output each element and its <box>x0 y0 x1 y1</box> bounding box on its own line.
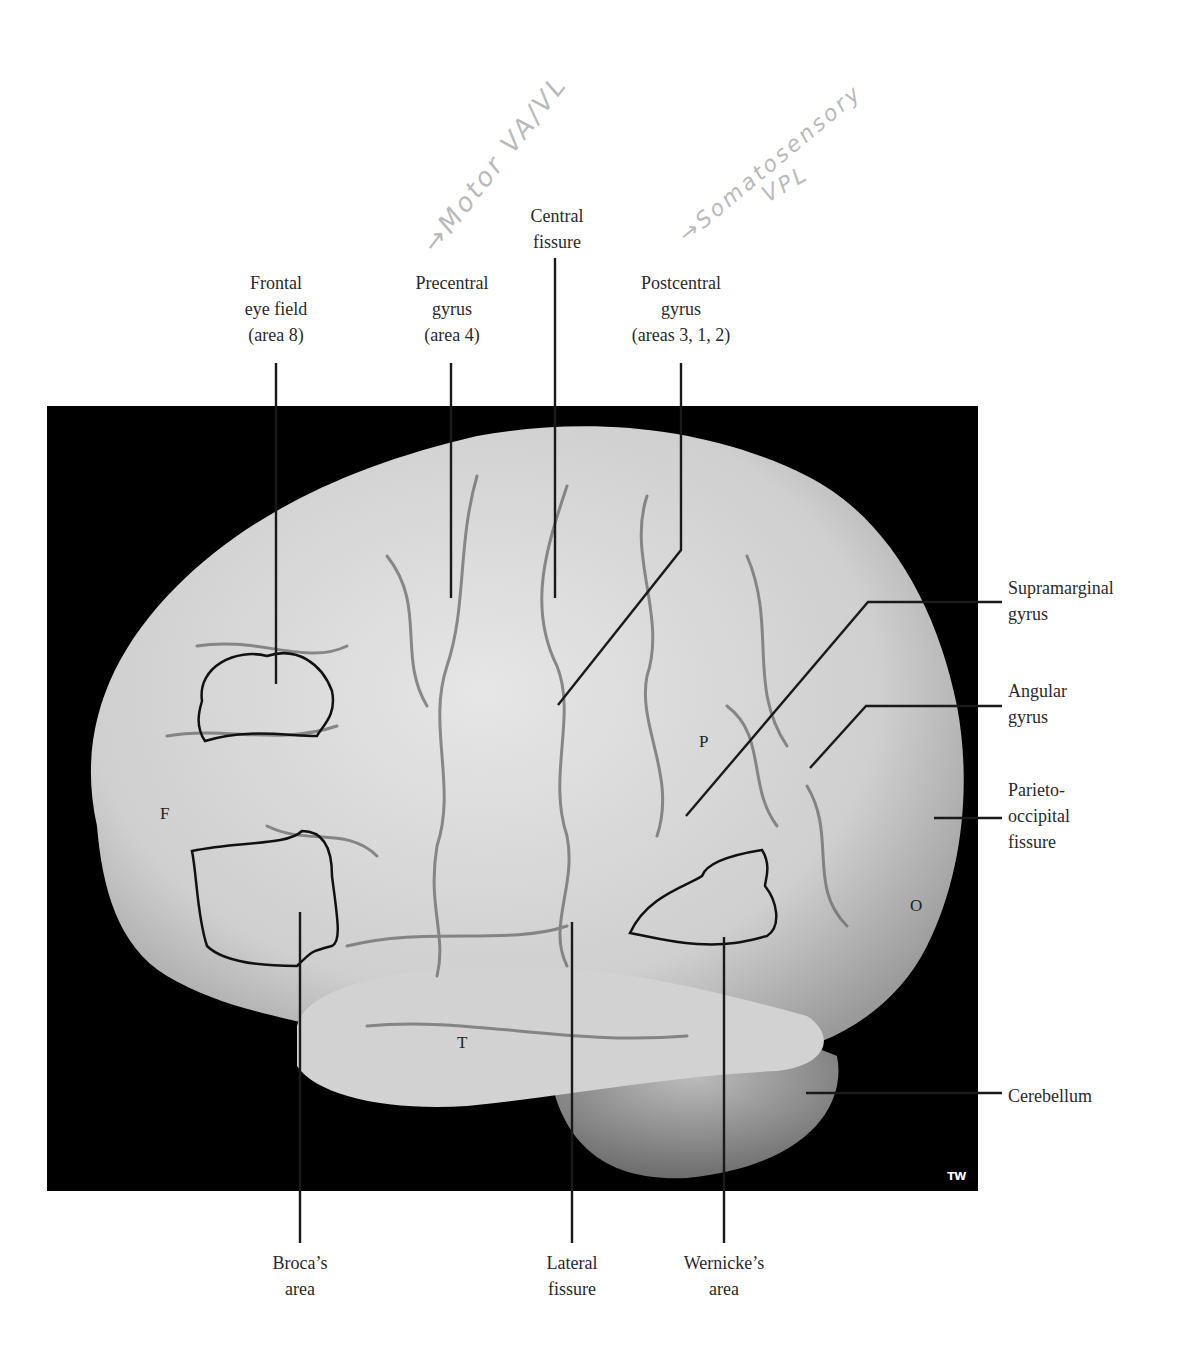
leader-lines <box>0 0 1188 1351</box>
leader-postcentral-gyrus <box>558 363 681 705</box>
leader-supramarginal-gyrus <box>686 602 1002 816</box>
leader-angular-gyrus <box>810 706 1002 768</box>
